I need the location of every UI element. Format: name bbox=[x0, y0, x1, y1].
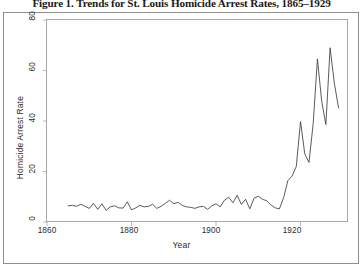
x-axis-ticks bbox=[47, 222, 301, 226]
x-axis-title: Year bbox=[0, 240, 363, 250]
y-tick-label: 40 bbox=[28, 113, 39, 123]
y-tick-label: 80 bbox=[28, 11, 39, 21]
figure-page: Figure 1. Trends for St. Louis Homicide … bbox=[0, 0, 363, 268]
data-line-homicide-arrest-rate bbox=[68, 48, 338, 211]
x-tick-label: 1860 bbox=[30, 226, 64, 235]
y-tick-label: 0 bbox=[28, 216, 39, 221]
y-tick-label: 60 bbox=[28, 62, 39, 72]
y-tick-label: 20 bbox=[28, 164, 39, 174]
y-axis-ticks bbox=[43, 20, 47, 222]
x-tick-label: 1920 bbox=[275, 226, 309, 235]
y-axis-title: Homicide Arrest Rate bbox=[15, 96, 25, 179]
x-tick-label: 1880 bbox=[112, 226, 146, 235]
x-tick-label: 1900 bbox=[194, 226, 228, 235]
